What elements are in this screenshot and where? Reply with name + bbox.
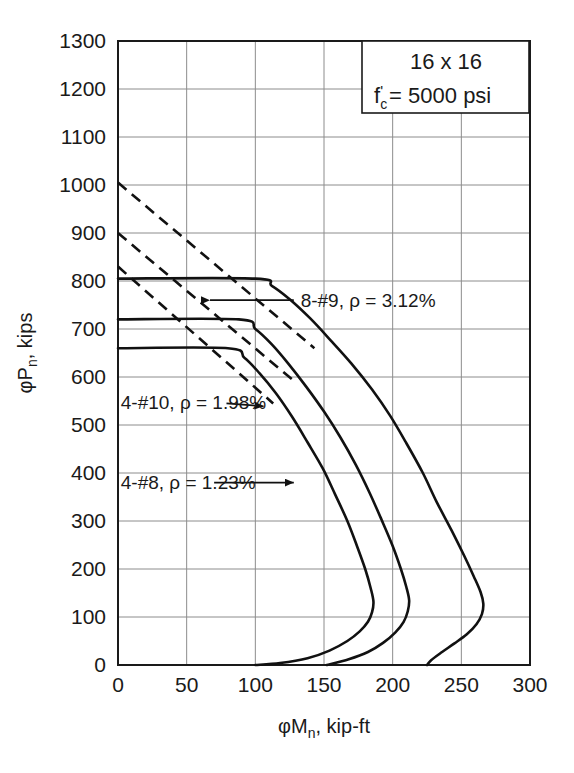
spec-box-fc-label: fc' = 5000 psi <box>374 82 491 112</box>
y-tick-label: 200 <box>71 557 106 580</box>
chart-svg: 0100200300400500600700800900100011001200… <box>0 0 574 773</box>
y-tick-label: 1200 <box>59 77 106 100</box>
interaction-diagram-figure: 0100200300400500600700800900100011001200… <box>0 0 574 773</box>
y-tick-label: 700 <box>71 317 106 340</box>
y-tick-label: 600 <box>71 365 106 388</box>
curve-annotation-label: 8-#9, ρ = 3.12% <box>301 290 436 311</box>
y-tick-label: 0 <box>94 653 106 676</box>
y-tick-label: 800 <box>71 269 106 292</box>
anno-4-10: 4-#10, ρ = 1.98% <box>121 392 267 413</box>
x-tick-label: 50 <box>175 673 198 696</box>
x-tick-label: 200 <box>375 673 410 696</box>
curve-annotation-label: 4-#8, ρ = 1.23% <box>121 472 256 493</box>
y-tick-label: 500 <box>71 413 106 436</box>
x-tick-label: 300 <box>512 673 547 696</box>
y-tick-label: 1000 <box>59 173 106 196</box>
y-tick-label: 100 <box>71 605 106 628</box>
x-tick-label: 0 <box>112 673 124 696</box>
spec-box-size-label: 16 x 16 <box>410 49 482 74</box>
y-tick-label: 900 <box>71 221 106 244</box>
x-tick-label: 250 <box>444 673 479 696</box>
x-tick-label: 150 <box>306 673 341 696</box>
y-tick-label: 1100 <box>61 125 106 148</box>
y-tick-label: 300 <box>71 509 106 532</box>
y-tick-label: 400 <box>71 461 106 484</box>
x-tick-label: 100 <box>238 673 273 696</box>
y-tick-label: 1300 <box>59 29 106 52</box>
curve-annotation-label: 4-#10, ρ = 1.98% <box>121 392 267 413</box>
spec-box: 16 x 16 fc' = 5000 psi <box>362 41 529 113</box>
